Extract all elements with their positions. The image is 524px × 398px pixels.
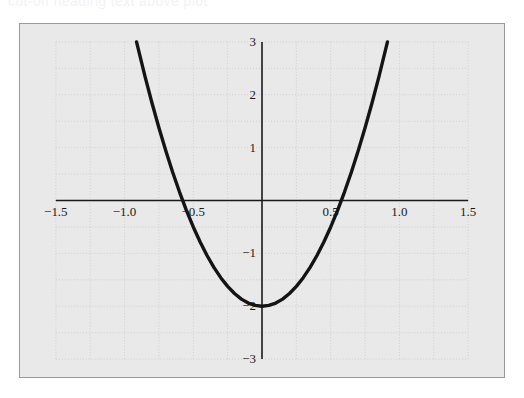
x-tick-label: 1.5: [460, 204, 476, 219]
plot-area: −1.5−1.0−0.50.51.01.5321−1−2−3: [20, 24, 504, 377]
y-tick-label: 3: [250, 34, 256, 49]
y-tick-label: 1: [250, 140, 256, 155]
y-tick-label: −2: [242, 298, 256, 313]
x-tick-label: 0.5: [323, 204, 339, 219]
axis-lines: [56, 42, 468, 359]
y-tick-label: −3: [242, 351, 256, 366]
x-tick-label: −1.0: [113, 204, 136, 219]
y-tick-label: 2: [250, 87, 256, 102]
x-tick-label: 1.0: [391, 204, 407, 219]
plot-panel: −1.5−1.0−0.50.51.01.5321−1−2−3: [19, 23, 505, 378]
caption-strip: cut-off heading text above plot: [0, 0, 524, 14]
y-tick-label: −1: [242, 245, 256, 260]
caption-text: cut-off heading text above plot: [8, 0, 208, 9]
plot-svg: −1.5−1.0−0.50.51.01.5321−1−2−3: [20, 24, 504, 377]
x-tick-label: −1.5: [44, 204, 67, 219]
x-tick-label: −0.5: [182, 204, 205, 219]
